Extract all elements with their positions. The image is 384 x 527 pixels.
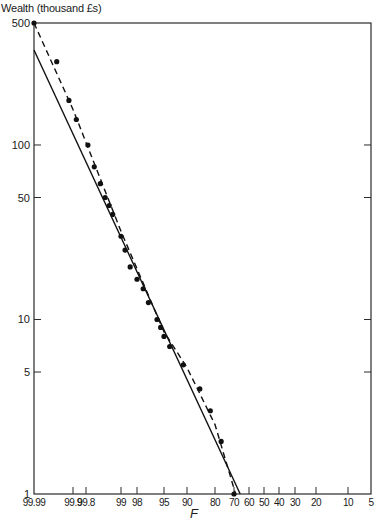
x-axis-ticks: 99.9999.999.89998959080706050403020105 bbox=[23, 487, 375, 508]
x-tick-label: 10 bbox=[343, 497, 354, 508]
x-axis-variable-label: F bbox=[190, 506, 199, 521]
x-tick-label: 99.99 bbox=[23, 497, 46, 508]
x-tick-label: 50 bbox=[259, 497, 270, 508]
chart-canvas: 151050100500 99.9999.999.899989590807060… bbox=[0, 0, 384, 527]
x-tick-label: 20 bbox=[311, 497, 322, 508]
data-point bbox=[128, 264, 133, 269]
y-tick-label: 5 bbox=[24, 366, 30, 378]
y-tick-label: 50 bbox=[18, 192, 30, 204]
x-tick-label: 80 bbox=[210, 497, 221, 508]
data-point bbox=[231, 491, 236, 496]
dashed-fit-curve bbox=[34, 23, 236, 494]
y-tick-label: 500 bbox=[12, 17, 30, 29]
x-tick-label: 40 bbox=[274, 497, 285, 508]
y-tick-label: 10 bbox=[18, 313, 30, 325]
solid-fit-line bbox=[34, 50, 240, 494]
data-point bbox=[134, 277, 139, 282]
x-tick-label: 99.8 bbox=[77, 497, 95, 508]
y-tick-label: 100 bbox=[12, 139, 30, 151]
x-tick-label: 95 bbox=[159, 497, 170, 508]
x-tick-label: 70 bbox=[229, 497, 240, 508]
x-tick-label: 98 bbox=[132, 497, 143, 508]
y-axis-ticks: 151050100500 bbox=[12, 17, 371, 500]
x-tick-label: 30 bbox=[290, 497, 301, 508]
x-tick-label: 99 bbox=[116, 497, 127, 508]
data-series bbox=[31, 20, 240, 496]
data-point bbox=[54, 59, 59, 64]
axes bbox=[34, 23, 371, 494]
x-tick-label: 60 bbox=[244, 497, 255, 508]
plot-frame bbox=[34, 23, 371, 494]
x-tick-label: 5 bbox=[368, 497, 374, 508]
